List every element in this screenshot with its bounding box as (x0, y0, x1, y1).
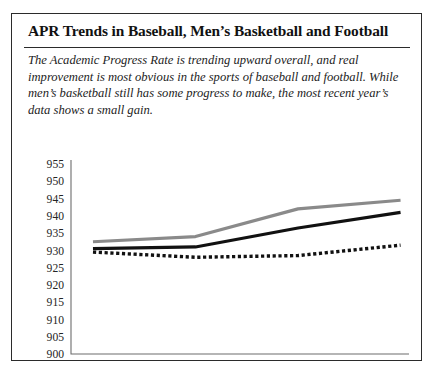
y-axis-tick-label: 900 (47, 348, 65, 360)
series-line-football (93, 200, 401, 241)
y-axis-tick-label: 925 (47, 262, 65, 275)
line-chart: 900905910915920925930935940945950955 Yea… (12, 138, 421, 360)
y-axis-tick-label: 950 (47, 175, 65, 188)
y-axis-tick-labels: 900905910915920925930935940945950955 (47, 158, 65, 360)
chart-plot-area: 900905910915920925930935940945950955 Yea… (12, 138, 421, 360)
y-axis-tick-label: 935 (47, 227, 65, 240)
y-axis-tick-label: 945 (47, 193, 65, 206)
y-axis-tick-label: 905 (47, 331, 65, 344)
title-divider (24, 47, 410, 48)
y-axis-tick-label: 920 (47, 279, 65, 292)
y-axis-tick-label: 940 (47, 210, 65, 223)
y-axis-tick-label: 910 (47, 314, 65, 327)
y-axis-tick-label: 930 (47, 245, 65, 258)
y-axis-tick-label: 955 (47, 158, 65, 171)
figure-title: APR Trends in Baseball, Men’s Basketball… (28, 23, 408, 40)
series-line-baseball (93, 212, 401, 248)
figure-caption: The Academic Progress Rate is trending u… (28, 52, 410, 118)
y-axis-tick-label: 915 (47, 296, 65, 309)
figure-frame: APR Trends in Baseball, Men’s Basketball… (11, 13, 422, 361)
